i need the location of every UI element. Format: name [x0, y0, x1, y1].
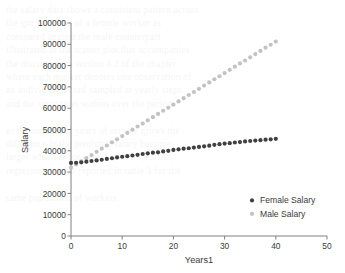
data-point — [156, 112, 160, 116]
series-female-salary-points — [69, 137, 278, 165]
y-tick-label: 40000 — [43, 146, 67, 156]
x-tick-label: 20 — [169, 241, 179, 251]
legend-label: Female Salary — [260, 195, 316, 205]
data-point — [166, 106, 170, 110]
data-point — [120, 134, 124, 138]
data-point — [130, 153, 134, 157]
data-point — [161, 149, 165, 153]
y-axis-tick-marks — [68, 23, 72, 236]
data-point — [258, 49, 262, 53]
data-point — [161, 109, 165, 113]
data-point — [141, 121, 145, 125]
y-tick-label: 80000 — [43, 61, 67, 71]
data-point — [192, 146, 196, 150]
x-axis-tick-marks — [71, 236, 327, 240]
x-axis-tick-labels: 01020304050 — [69, 241, 332, 251]
data-point — [176, 147, 180, 151]
data-point — [171, 102, 175, 106]
y-tick-label: 20000 — [43, 189, 67, 199]
data-point — [176, 99, 180, 103]
data-point — [125, 131, 129, 135]
data-point — [258, 138, 262, 142]
data-point — [223, 71, 227, 75]
data-point — [171, 148, 175, 152]
data-point — [263, 138, 267, 142]
data-point — [243, 58, 247, 62]
data-point — [110, 140, 114, 144]
data-point — [135, 153, 139, 157]
data-point — [274, 137, 278, 141]
data-point — [197, 87, 201, 91]
data-point — [238, 140, 242, 144]
data-point — [141, 152, 145, 156]
data-point — [187, 146, 191, 150]
data-point — [269, 137, 273, 141]
data-point — [212, 77, 216, 81]
data-point — [269, 43, 273, 47]
data-point — [95, 150, 99, 154]
data-point — [182, 147, 186, 151]
data-point — [187, 93, 191, 97]
x-tick-label: 10 — [118, 241, 128, 251]
y-axis-title: Salary — [20, 127, 30, 153]
y-tick-label: 70000 — [43, 82, 67, 92]
data-point — [253, 52, 257, 56]
data-point — [120, 155, 124, 159]
data-point — [233, 65, 237, 69]
data-point — [79, 160, 83, 164]
x-tick-label: 0 — [69, 241, 74, 251]
data-point — [146, 151, 150, 155]
data-point — [228, 141, 232, 145]
data-point — [207, 144, 211, 148]
y-tick-label: 10000 — [43, 210, 67, 220]
data-point — [248, 139, 252, 143]
legend-marker — [250, 212, 254, 216]
data-point — [100, 147, 104, 151]
data-point — [125, 154, 129, 158]
data-point — [95, 158, 99, 162]
data-point — [100, 158, 104, 162]
data-point — [274, 39, 278, 43]
data-point — [146, 118, 150, 122]
data-point — [151, 115, 155, 119]
x-tick-label: 40 — [271, 241, 281, 251]
data-point — [166, 149, 170, 153]
data-point — [110, 156, 114, 160]
data-point — [202, 84, 206, 88]
data-point — [202, 144, 206, 148]
data-point — [233, 140, 237, 144]
data-point — [228, 68, 232, 72]
data-point — [105, 157, 109, 161]
data-point — [248, 55, 252, 59]
y-tick-label: 30000 — [43, 167, 67, 177]
y-tick-label: 50000 — [43, 125, 67, 135]
y-tick-label: 100000 — [38, 18, 66, 28]
data-point — [135, 124, 139, 128]
y-tick-label: 0 — [61, 231, 66, 241]
data-point — [115, 155, 119, 159]
data-point — [74, 161, 78, 165]
salary-scatter-chart: 0100002000030000400005000060000700008000… — [0, 0, 345, 273]
data-point — [238, 61, 242, 65]
data-point — [207, 80, 211, 84]
data-point — [243, 139, 247, 143]
legend-label: Male Salary — [260, 209, 306, 219]
y-tick-label: 90000 — [43, 39, 67, 49]
data-point — [89, 153, 93, 157]
data-point — [217, 142, 221, 146]
data-point — [69, 166, 73, 170]
data-point — [253, 138, 257, 142]
data-point — [182, 96, 186, 100]
chart-legend: Female SalaryMale Salary — [250, 195, 316, 219]
data-point — [197, 145, 201, 149]
data-point — [212, 143, 216, 147]
data-point — [115, 137, 119, 141]
data-point — [89, 159, 93, 163]
data-point — [69, 161, 73, 165]
data-point — [192, 90, 196, 94]
x-tick-label: 50 — [322, 241, 332, 251]
data-point — [223, 141, 227, 145]
data-point — [105, 143, 109, 147]
data-point — [217, 74, 221, 78]
data-point — [130, 128, 134, 132]
